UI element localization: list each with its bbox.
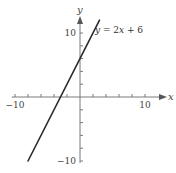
annotations: y = 2x + 6 — [94, 25, 143, 35]
series-line — [28, 20, 100, 161]
equation-part: + 6 — [124, 25, 143, 35]
x-tick-label: −10 — [6, 100, 25, 110]
chart: xy −101010−10 y = 2x + 6 — [0, 0, 176, 173]
y-axis-label: y — [76, 4, 83, 15]
equation-part: = 2 — [100, 25, 119, 35]
y-axis-arrow-icon — [77, 16, 83, 24]
axes: xy — [12, 4, 174, 163]
y-tick-label: −10 — [57, 156, 76, 166]
x-tick-label: 10 — [139, 100, 151, 110]
y-tick-label: 10 — [65, 28, 77, 38]
series — [28, 20, 100, 161]
x-axis-label: x — [168, 91, 174, 102]
x-axis-arrow-icon — [159, 94, 167, 100]
equation-label: y = 2x + 6 — [94, 25, 143, 35]
